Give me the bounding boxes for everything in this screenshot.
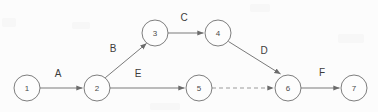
node-6[interactable]: 6 [275, 75, 301, 101]
edge-label-F: F [319, 67, 325, 78]
edge-label-B: B [110, 43, 117, 54]
node-5[interactable]: 5 [186, 75, 212, 101]
node-1-label: 1 [25, 84, 30, 93]
node-3-label: 3 [153, 29, 158, 38]
node-5-label: 5 [197, 84, 202, 93]
edge-D-line[interactable] [229, 42, 281, 75]
edge-labels-group: A B C D E F [55, 12, 325, 79]
node-2[interactable]: 2 [84, 75, 110, 101]
node-4[interactable]: 4 [205, 20, 231, 46]
node-2-label: 2 [95, 84, 100, 93]
edge-label-A: A [55, 68, 62, 79]
node-3[interactable]: 3 [142, 20, 168, 46]
nodes-group: 1 2 3 4 5 6 [14, 20, 367, 101]
node-1[interactable]: 1 [14, 75, 40, 101]
edge-label-D: D [260, 45, 267, 56]
network-diagram-svg: 1 2 3 4 5 6 [0, 0, 378, 112]
node-7[interactable]: 7 [341, 75, 367, 101]
network-diagram-canvas: 1 2 3 4 5 6 [0, 0, 378, 112]
node-6-label: 6 [286, 84, 291, 93]
node-4-label: 4 [216, 29, 221, 38]
edge-label-E: E [135, 68, 142, 79]
edge-label-C: C [180, 12, 187, 23]
node-7-label: 7 [352, 84, 357, 93]
